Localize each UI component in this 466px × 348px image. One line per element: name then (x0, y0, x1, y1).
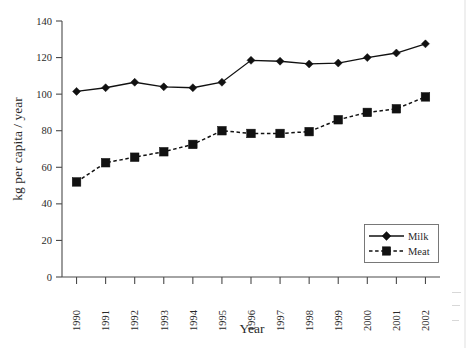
data-point-meat-1990 (72, 178, 81, 187)
x-tick-label: 1991 (100, 310, 111, 331)
y-tick-label: 140 (36, 16, 52, 27)
data-point-milk-2001 (392, 49, 400, 57)
data-point-milk-1990 (73, 87, 81, 95)
data-point-milk-1998 (305, 60, 313, 68)
y-tick-label: 20 (42, 235, 53, 246)
chart-legend: Milk Meat (365, 225, 439, 263)
legend-label-meat: Meat (408, 246, 430, 257)
legend-label-milk: Milk (408, 231, 429, 242)
x-tick-label: 1997 (275, 310, 286, 331)
data-point-meat-1992 (130, 153, 139, 162)
x-tick-label: 1995 (217, 310, 228, 331)
x-tick-label: 1990 (71, 310, 82, 331)
data-point-milk-1997 (276, 57, 284, 65)
data-point-milk-1993 (160, 83, 168, 91)
scan-artifact (452, 292, 461, 293)
x-tick-label: 1992 (129, 310, 140, 331)
data-point-milk-1992 (131, 78, 139, 86)
scan-artifact (452, 305, 460, 306)
x-tick-label: 2001 (391, 310, 402, 331)
y-tick-label: 0 (47, 272, 52, 283)
data-point-meat-1994 (189, 140, 198, 149)
y-tick-label: 120 (36, 52, 52, 63)
x-tick-label: 2002 (420, 310, 431, 331)
series-line-meat (77, 97, 426, 182)
x-axis-title: Year (240, 321, 265, 336)
data-point-meat-2001 (392, 104, 401, 113)
y-tick-label: 100 (36, 89, 52, 100)
x-tick-label: 1994 (188, 309, 199, 331)
series-line-milk (77, 44, 426, 92)
data-point-milk-2002 (421, 40, 429, 48)
line-chart: 020406080100120140 199019911992199319941… (0, 0, 466, 348)
y-tick-label: 60 (42, 162, 53, 173)
data-point-milk-2000 (363, 54, 371, 62)
data-point-meat-1998 (305, 127, 314, 136)
y-axis-title: kg per capita / year (10, 97, 25, 201)
series-layer (72, 40, 430, 186)
x-tick-label: 2000 (362, 310, 373, 331)
data-point-milk-1991 (102, 84, 110, 92)
data-point-milk-1994 (189, 84, 197, 92)
y-axis-ticks: 020406080100120140 (36, 16, 62, 283)
data-point-meat-1995 (218, 126, 227, 135)
scan-artifact (452, 320, 459, 321)
series-milk (73, 40, 430, 96)
x-tick-label: 1993 (159, 310, 170, 331)
data-point-milk-1999 (334, 59, 342, 67)
series-meat (72, 93, 430, 187)
data-point-meat-1996 (247, 129, 256, 138)
data-point-meat-1993 (159, 147, 168, 156)
x-tick-label: 1998 (304, 310, 315, 331)
legend-marker-meat-square (382, 247, 390, 255)
data-point-meat-1999 (334, 115, 343, 124)
data-point-meat-2002 (421, 93, 430, 102)
y-tick-label: 80 (42, 125, 53, 136)
y-tick-label: 40 (42, 198, 53, 209)
data-point-meat-1991 (101, 158, 110, 167)
data-point-meat-2000 (363, 108, 372, 117)
data-point-meat-1997 (276, 129, 285, 138)
chart-canvas: 020406080100120140 199019911992199319941… (0, 0, 466, 348)
x-tick-label: 1999 (333, 310, 344, 331)
